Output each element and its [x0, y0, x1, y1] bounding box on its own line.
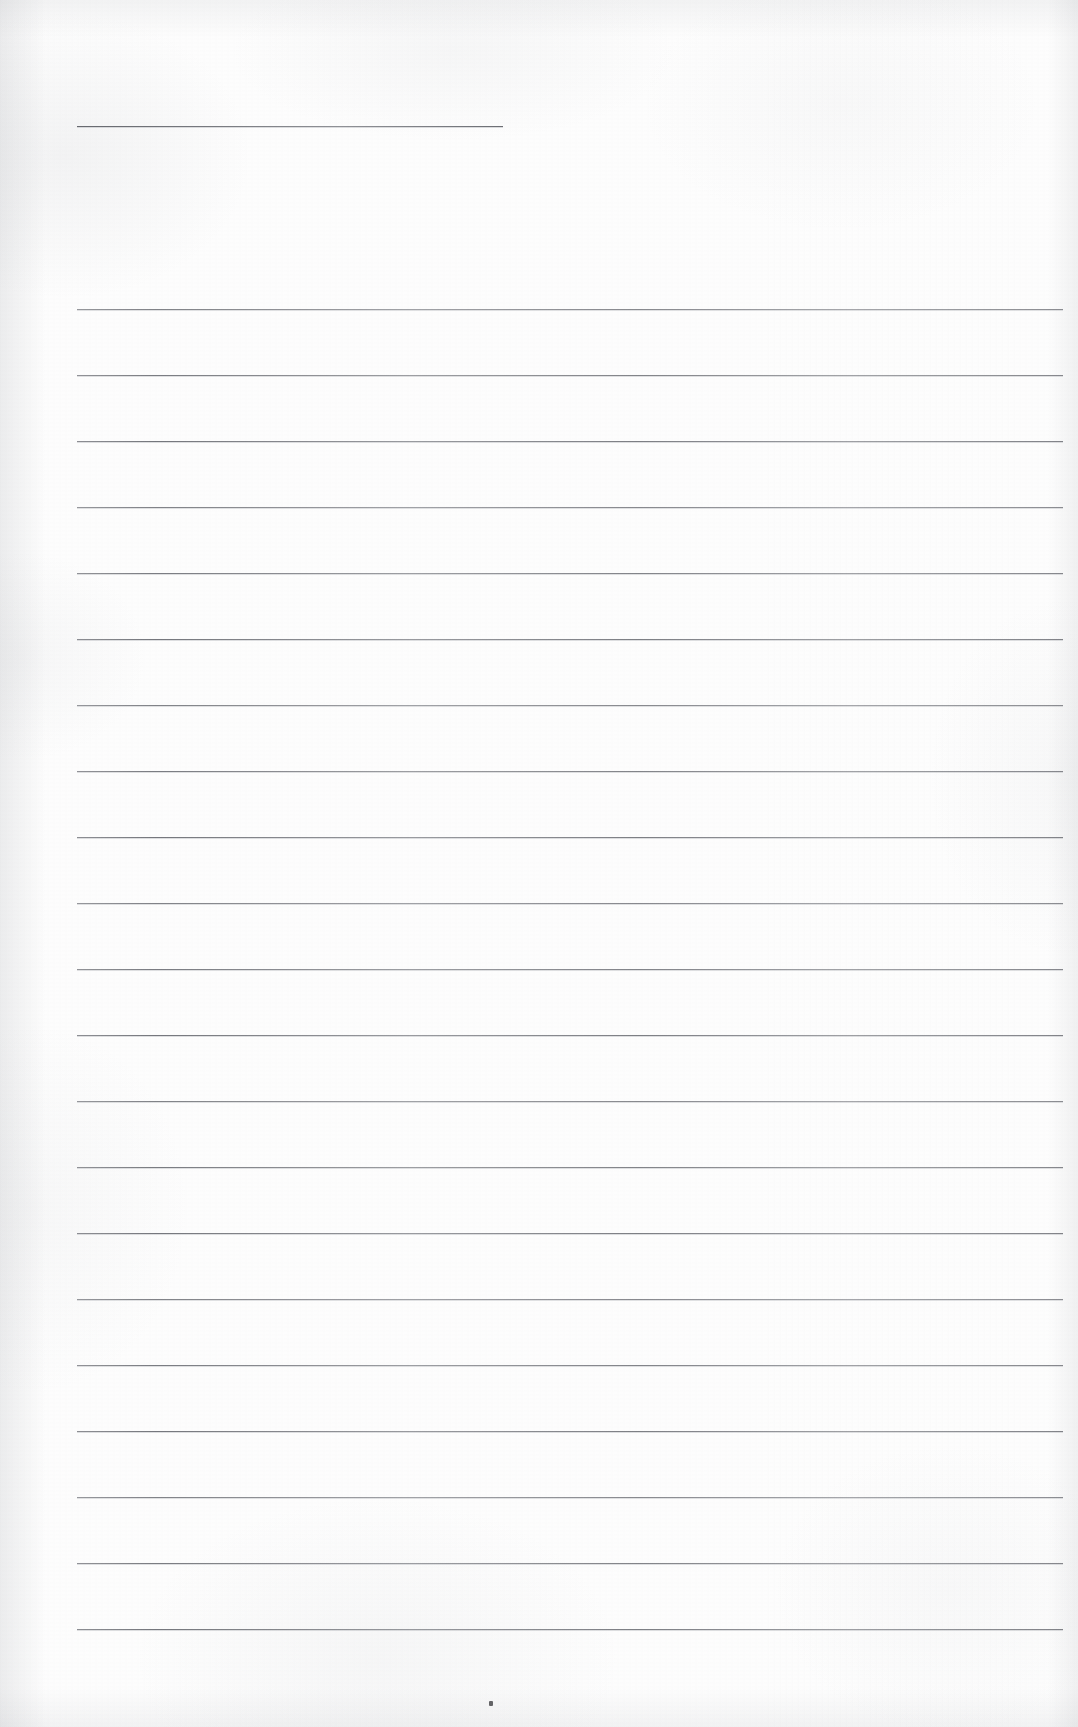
ruled-line [77, 1365, 1063, 1366]
ruled-line [77, 1563, 1063, 1564]
ruled-line [77, 309, 1063, 310]
ruled-line [77, 375, 1063, 376]
paper-background [0, 0, 1078, 1727]
ruled-line [77, 705, 1063, 706]
ruled-line [77, 837, 1063, 838]
ruled-line [77, 969, 1063, 970]
ruled-line [77, 573, 1063, 574]
ruled-line [77, 441, 1063, 442]
ruled-line [77, 507, 1063, 508]
header-rule [77, 126, 503, 127]
ruled-line [77, 639, 1063, 640]
ruled-line [77, 1233, 1063, 1234]
ruled-line [77, 1101, 1063, 1102]
ruled-line [77, 1167, 1063, 1168]
scanned-page: Blank ruled notebook page (scan) [0, 0, 1078, 1727]
ruled-line [77, 1431, 1063, 1432]
ink-speck [489, 1701, 493, 1706]
ruled-line [77, 1299, 1063, 1300]
ruled-line [77, 771, 1063, 772]
ruled-line [77, 1497, 1063, 1498]
ruled-line [77, 903, 1063, 904]
ruled-line [77, 1035, 1063, 1036]
ruled-line [77, 1629, 1063, 1630]
